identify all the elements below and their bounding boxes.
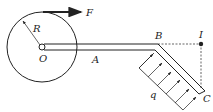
label-point-i: I bbox=[198, 29, 204, 40]
rod-horizontal-lower bbox=[44, 50, 199, 94]
load-baseline bbox=[139, 68, 183, 110]
point-i-dot bbox=[199, 42, 203, 46]
label-point-c: C bbox=[203, 93, 211, 104]
label-load-q: q bbox=[150, 89, 156, 100]
label-point-b: B bbox=[154, 30, 162, 41]
label-radius: R bbox=[32, 23, 41, 34]
mechanics-diagram: F R O A B I C q bbox=[0, 0, 213, 112]
label-point-a: A bbox=[91, 54, 99, 65]
label-force: F bbox=[85, 7, 94, 18]
rod-horizontal bbox=[44, 44, 205, 91]
label-center: O bbox=[39, 53, 47, 64]
